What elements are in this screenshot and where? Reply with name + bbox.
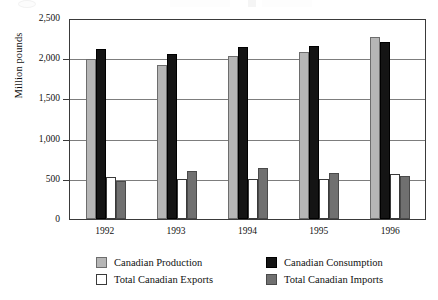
x-axis-tick-label-1994: 1994 (217, 226, 277, 236)
bar-imports-1992 (116, 181, 126, 219)
bar-production-1994 (228, 56, 238, 219)
legend-item-imports: Total Canadian Imports (266, 274, 426, 285)
bar-chart-figure: Million pounds 05001,0001,5002,0002,500 … (0, 0, 438, 300)
y-axis-tick-label: 1,000 (8, 135, 60, 145)
bar-consumption-1994 (238, 47, 248, 219)
legend-item-exports: Total Canadian Exports (96, 274, 266, 285)
x-axis-tick-labels: 19921993199419951996 (69, 226, 426, 236)
bar-groups (70, 20, 425, 219)
bar-exports-1993 (177, 179, 187, 219)
legend-swatch-exports-icon (96, 274, 107, 285)
bar-consumption-1992 (96, 49, 106, 219)
x-axis-tick-label-1995: 1995 (289, 226, 349, 236)
legend-item-consumption: Canadian Consumption (266, 257, 426, 268)
legend-label: Canadian Production (114, 257, 202, 268)
bar-production-1993 (157, 65, 167, 219)
cropped-caption-artifact (248, 0, 256, 7)
bar-imports-1996 (400, 176, 410, 219)
bar-exports-1995 (319, 179, 329, 219)
y-axis-title: Million pounds (13, 11, 24, 121)
legend-label: Total Canadian Exports (114, 274, 213, 285)
bar-imports-1993 (187, 171, 197, 219)
legend-swatch-consumption-icon (266, 257, 277, 268)
bar-production-1996 (370, 37, 380, 219)
legend-swatch-imports-icon (266, 274, 277, 285)
bar-group-1996 (370, 20, 410, 219)
bar-exports-1996 (390, 174, 400, 219)
bar-consumption-1993 (167, 54, 177, 219)
y-axis-tick-label: 1,500 (8, 94, 60, 104)
bar-production-1995 (299, 52, 309, 219)
x-axis-tick-label-1993: 1993 (146, 226, 206, 236)
chart-legend: Canadian ProductionCanadian ConsumptionT… (96, 254, 426, 288)
legend-label: Total Canadian Imports (284, 274, 383, 285)
bar-exports-1994 (248, 179, 258, 219)
legend-item-production: Canadian Production (96, 257, 266, 268)
bar-production-1992 (86, 59, 96, 219)
legend-swatch-production-icon (96, 257, 107, 268)
y-axis-tick-label: 2,500 (8, 14, 60, 24)
y-axis-tick-label: 2,000 (8, 54, 60, 64)
cropped-caption-artifact (18, 0, 36, 8)
plot-area (69, 19, 426, 220)
bar-exports-1992 (106, 177, 116, 219)
bar-group-1995 (299, 20, 339, 219)
cropped-caption-artifact (170, 0, 230, 7)
legend-label: Canadian Consumption (284, 257, 383, 268)
y-axis-tick-label: 500 (8, 175, 60, 185)
bar-imports-1995 (329, 173, 339, 219)
bar-group-1994 (228, 20, 268, 219)
bar-consumption-1995 (309, 46, 319, 219)
y-axis-tick-label: 0 (8, 215, 60, 225)
x-axis-tick-label-1992: 1992 (75, 226, 135, 236)
bar-imports-1994 (258, 168, 268, 219)
bar-group-1992 (86, 20, 126, 219)
cropped-caption-artifact (262, 0, 312, 7)
x-axis-tick-label-1996: 1996 (360, 226, 420, 236)
bar-consumption-1996 (380, 42, 390, 219)
bar-group-1993 (157, 20, 197, 219)
